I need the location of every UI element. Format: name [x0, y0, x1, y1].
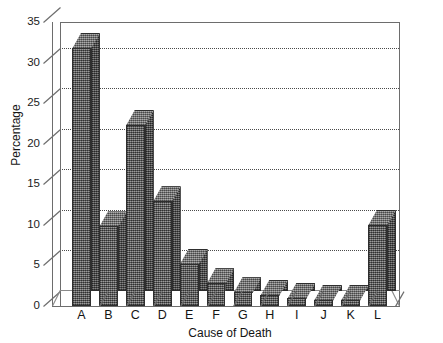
y-tick-label: 35	[0, 16, 40, 28]
y-tick-label: 5	[0, 259, 40, 271]
y-tick-label: 0	[0, 300, 40, 312]
floor-tick	[341, 291, 351, 306]
bar-A	[72, 33, 91, 306]
floor-tick	[207, 291, 217, 306]
floor-tick	[233, 291, 243, 306]
y-axis-line	[52, 22, 53, 306]
floor-tick	[180, 291, 190, 306]
floor-tick	[153, 291, 163, 306]
floor-tick	[314, 291, 324, 306]
bar-C	[126, 110, 145, 306]
floor-tick	[99, 291, 109, 306]
bar-front-face	[72, 48, 91, 306]
floor-tick	[395, 291, 405, 306]
x-axis-title: Cause of Death	[60, 326, 400, 340]
bar-front-face	[126, 125, 145, 306]
x-tick-label-L: L	[358, 308, 398, 322]
y-tick-label: 10	[0, 219, 40, 231]
bar-chart-figure: 05101520253035 ABCDEFGHIJKL Percentage C…	[0, 0, 443, 343]
y-tick-label: 30	[0, 57, 40, 69]
floor-tick	[287, 291, 297, 306]
floor-tick	[260, 291, 270, 306]
bar-D	[153, 186, 172, 306]
floor-tick	[126, 291, 136, 306]
floor-tick	[368, 291, 378, 306]
y-axis-title: Percentage	[9, 75, 23, 195]
y-tick-mark	[43, 7, 53, 23]
